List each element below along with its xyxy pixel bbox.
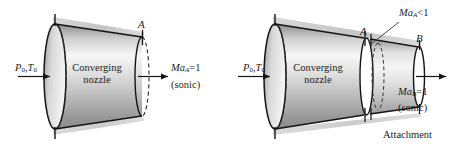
right-station-b-label: B xyxy=(416,33,423,45)
right-exit-ma: Ma xyxy=(398,86,412,97)
left-exit-ma-value: =1 xyxy=(189,62,200,73)
right-callout-ma: Ma xyxy=(399,7,413,18)
left-inlet-t-sub: 0 xyxy=(33,66,37,74)
right-nozzle-caption: Converging nozzle xyxy=(285,62,351,86)
right-callout-mach-label: MaA<1 xyxy=(399,7,428,19)
figure-canvas: P0,T0 Converging nozzle A MaA=1 (sonic) … xyxy=(0,0,463,152)
right-callout-ma-value: <1 xyxy=(417,7,428,18)
left-exit-mach-label: MaA=1 xyxy=(171,62,200,74)
left-nozzle-caption-line1: Converging xyxy=(64,62,130,74)
right-inlet-t-sub: 0 xyxy=(261,66,265,74)
right-exit-sonic-note: (sonic) xyxy=(398,102,427,113)
left-station-a-label: A xyxy=(138,19,145,31)
left-nozzle-caption: Converging nozzle xyxy=(64,62,130,86)
left-exit-sonic-note: (sonic) xyxy=(171,79,200,90)
left-exit-ma: Ma xyxy=(171,62,185,73)
right-exit-ma-value: =1 xyxy=(416,86,427,97)
right-station-a-ellipse xyxy=(360,38,373,115)
right-exit-arrow-head xyxy=(439,74,446,80)
attachment-label: Attachment xyxy=(383,129,432,140)
left-nozzle-caption-line2: nozzle xyxy=(64,74,130,86)
right-station-a-label: A xyxy=(360,26,367,38)
right-inlet-stagnation-label: P0,T0 xyxy=(243,62,265,74)
right-nozzle-caption-line2: nozzle xyxy=(285,74,351,86)
right-exit-mach-label: MaB=1 xyxy=(398,86,427,98)
left-exit-arrow-head xyxy=(161,74,168,80)
right-nozzle-caption-line1: Converging xyxy=(285,62,351,74)
left-inlet-stagnation-label: P0,T0 xyxy=(15,62,37,74)
